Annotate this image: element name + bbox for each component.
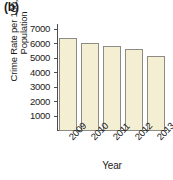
x-axis-title: Year [57,160,167,171]
y-axis-title: Crime Rate per 100,000 Population [5,0,33,88]
y-tick: 5000 [54,58,58,59]
y-tick: 6000 [54,43,58,44]
y-tick: 1000 [54,116,58,117]
y-tick-label: 7000 [30,25,50,35]
plot-area: 1000200030004000500060007000 20092010201… [57,24,167,131]
y-tick: 4000 [54,72,58,73]
bar [59,38,77,131]
bar [147,56,165,131]
y-tick: 7000 [54,29,58,30]
chart-figure: (b) Crime Rate per 100,000 Population 10… [0,0,173,180]
y-tick-label: 6000 [30,39,50,49]
y-tick-label: 5000 [30,53,50,63]
y-axis-title-text: Crime Rate per 100,000 Population [9,0,30,82]
y-tick: 2000 [54,101,58,102]
bar [81,43,99,131]
y-tick-label: 4000 [30,68,50,78]
bar [103,46,121,131]
y-tick-label: 1000 [30,111,50,121]
y-tick: 3000 [54,87,58,88]
y-tick-label: 2000 [30,97,50,107]
bar [125,49,143,131]
y-tick-label: 3000 [30,82,50,92]
